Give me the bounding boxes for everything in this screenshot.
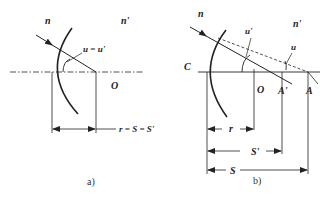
label-A-prime: A' (277, 85, 288, 96)
label-n-prime-a: n' (121, 15, 130, 26)
refraction-diagrams: n n' u = u' O r = S = S' a) n n' C u' u … (0, 0, 331, 197)
angle-leader-u-prime (246, 38, 251, 57)
label-u: u (291, 42, 296, 52)
label-O-a: O (111, 80, 118, 91)
angle-arc-u (285, 61, 286, 70)
diagram-b: n n' C u' u O A' A r S' S b) (184, 8, 320, 187)
label-n-prime-b: n' (293, 18, 302, 29)
label-A: A (305, 85, 313, 96)
ray-arrow-b (200, 32, 206, 36)
object-ray-tail-b (308, 72, 318, 84)
label-r: r (229, 123, 233, 134)
diagram-a: n n' u = u' O r = S = S' a) (10, 15, 155, 188)
label-n-b: n (198, 8, 204, 19)
angle-leader-a (67, 53, 82, 62)
label-C: C (184, 61, 191, 72)
label-n-a: n (45, 15, 51, 26)
label-O-b: O (257, 84, 264, 95)
label-u-prime: u' (245, 26, 253, 36)
refracting-surface-a (57, 28, 78, 114)
diagram-canvas: n n' u = u' O r = S = S' a) n n' C u' u … (0, 0, 331, 197)
angle-arc-u-prime (242, 55, 250, 72)
label-S-prime: S' (251, 146, 260, 157)
label-angle-a: u = u' (83, 44, 106, 54)
ray-arrow-a (46, 41, 52, 45)
caption-a: a) (87, 176, 95, 188)
caption-b: b) (253, 175, 261, 187)
label-S: S (230, 165, 236, 176)
angle-leader-u (286, 53, 292, 64)
label-dim-a: r = S = S' (119, 124, 155, 134)
